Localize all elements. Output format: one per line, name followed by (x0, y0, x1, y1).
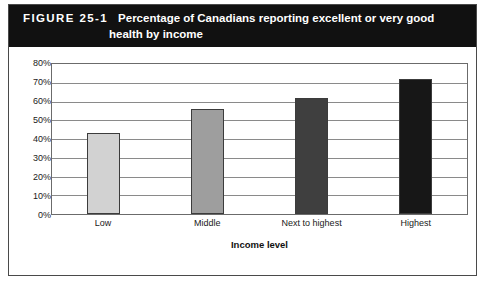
y-axis-tick-label: 60% (13, 96, 51, 106)
x-axis-category-label: Low (51, 217, 155, 229)
bar-slot (260, 64, 364, 214)
y-axis-tick-label: 10% (13, 191, 51, 201)
x-axis-category-label: Next to highest (260, 217, 364, 229)
y-axis-tick-label: 40% (13, 134, 51, 144)
figure-title-line-2: health by income (23, 26, 462, 42)
bar-slot (52, 64, 156, 214)
bar[interactable] (399, 79, 432, 214)
figure-number: FIGURE 25-1 (23, 12, 108, 24)
y-axis-tick-label: 30% (13, 153, 51, 163)
y-axis-tick-label: 80% (13, 58, 51, 68)
x-axis-category-label: Highest (364, 217, 468, 229)
figure-container: FIGURE 25-1Percentage of Canadians repor… (0, 0, 491, 288)
figure-title-text-1: Percentage of Canadians reporting excell… (118, 12, 434, 24)
figure-header: FIGURE 25-1Percentage of Canadians repor… (9, 5, 476, 47)
bar-slot (363, 64, 467, 214)
y-axis-tick-label: 20% (13, 172, 51, 182)
bar-slot (156, 64, 260, 214)
chart-area: 80%70%60%50%40%30%20%10%0% LowMiddleNext… (9, 47, 476, 275)
plot-area (51, 63, 468, 215)
figure-frame: FIGURE 25-1Percentage of Canadians repor… (8, 4, 477, 276)
bar[interactable] (191, 109, 224, 214)
x-axis-title: Income level (51, 239, 468, 250)
x-axis-labels: LowMiddleNext to highestHighest (51, 217, 468, 229)
bar[interactable] (295, 98, 328, 214)
y-axis-tick-label: 70% (13, 77, 51, 87)
y-axis-tick-label: 0% (13, 210, 51, 220)
bar[interactable] (87, 133, 120, 214)
y-axis-labels: 80%70%60%50%40%30%20%10%0% (13, 63, 51, 215)
y-axis-tick-label: 50% (13, 115, 51, 125)
x-axis-category-label: Middle (155, 217, 259, 229)
figure-title-line-1: FIGURE 25-1Percentage of Canadians repor… (23, 10, 462, 26)
bar-series (52, 64, 467, 214)
